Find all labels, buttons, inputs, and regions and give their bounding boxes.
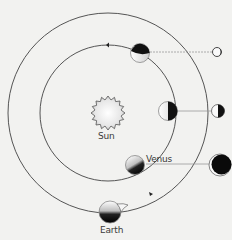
venus-phases-diagram (0, 0, 232, 240)
venus-position-1 (131, 44, 150, 63)
sun-icon (91, 96, 125, 130)
venus-position-3 (126, 156, 145, 175)
earth-orbit-arrow-icon (149, 192, 153, 196)
venus-orbit-arrow-icon (106, 43, 109, 48)
venus-position-2 (159, 102, 178, 121)
venus-phase-3-icon (209, 154, 232, 176)
sun-label: Sun (98, 131, 115, 141)
earth-label: Earth (100, 225, 123, 235)
venus-phase-1-icon (213, 48, 222, 57)
venus-label: Venus (146, 154, 172, 164)
venus-phase-2-icon (212, 105, 225, 118)
